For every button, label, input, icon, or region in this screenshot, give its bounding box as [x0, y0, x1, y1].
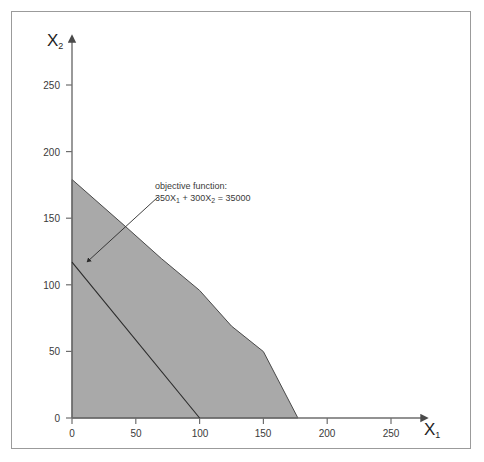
y-tick-label-0: 0 — [40, 413, 60, 424]
annotation-sub-1: 1 — [176, 197, 180, 204]
x-tick-label-50: 50 — [130, 428, 141, 439]
x-axis-ticks — [72, 418, 391, 424]
plot-area — [0, 0, 484, 462]
y-tick-label-50: 50 — [40, 346, 60, 357]
figure-canvas: 0 50 100 150 200 250 0 50 100 150 200 25… — [0, 0, 484, 462]
feasible-region-shape — [72, 180, 298, 419]
x-tick-label-200: 200 — [319, 428, 336, 439]
y-tick-label-150: 150 — [40, 213, 60, 224]
annotation-rhs: = 35000 — [215, 193, 250, 203]
annotation-sub-2: 2 — [211, 197, 215, 204]
x-tick-label-150: 150 — [255, 428, 272, 439]
x-axis-title: X1 — [424, 420, 440, 440]
x-axis-title-subscript: 1 — [435, 430, 440, 440]
y-axis-ticks — [66, 85, 72, 418]
y-axis-title-text: X — [47, 31, 58, 50]
x-tick-label-100: 100 — [192, 428, 209, 439]
annotation-coeff-1: 350X — [155, 193, 176, 203]
x-tick-label-250: 250 — [383, 428, 400, 439]
x-tick-label-0: 0 — [69, 428, 75, 439]
annotation-line-2: 350X1 + 300X2 = 35000 — [155, 192, 250, 205]
objective-function-annotation: objective function: 350X1 + 300X2 = 3500… — [155, 180, 250, 205]
y-axis-title-subscript: 2 — [58, 41, 63, 51]
annotation-line-1: objective function: — [155, 180, 250, 192]
y-tick-label-250: 250 — [40, 80, 60, 91]
y-tick-label-200: 200 — [40, 147, 60, 158]
y-tick-label-100: 100 — [40, 280, 60, 291]
x-axis-title-text: X — [424, 420, 435, 439]
annotation-mid: + 300X — [180, 193, 211, 203]
y-axis-title: X2 — [47, 31, 63, 51]
